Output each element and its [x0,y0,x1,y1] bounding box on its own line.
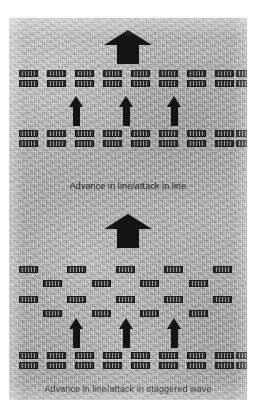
unit-block [92,280,111,287]
unit-block [215,352,234,359]
unit-block [187,130,206,137]
unit-block [236,352,247,359]
unit-block [19,70,38,77]
unit-block [19,352,38,359]
arrow-stem [123,106,130,126]
unit-block [19,140,38,147]
unit-block [215,70,234,77]
unit-block [215,140,234,147]
unit-block [213,296,232,303]
unit-block [131,352,150,359]
formation-diagram-figure: Advance in line/attack in line Advance i… [9,18,247,400]
unit-block [19,80,38,87]
unit-block [131,70,150,77]
attack-arrow-center [119,318,134,348]
arrow-stem [73,106,80,126]
unit-block [103,130,122,137]
unit-block [75,70,94,77]
unit-block [164,266,183,273]
main-advance-arrow [104,30,152,64]
unit-block [103,70,122,77]
panel-top-caption: Advance in line/attack in line [9,181,247,191]
unit-block [164,296,183,303]
unit-block [19,296,38,303]
unit-block [75,130,94,137]
unit-block [213,266,232,273]
arrow-head [104,214,152,229]
unit-block [215,80,234,87]
unit-block [187,352,206,359]
arrow-head [104,30,152,45]
unit-block [159,362,178,369]
unit-block [159,80,178,87]
unit-block [236,70,247,77]
attack-arrow-left [69,318,84,348]
unit-block [215,362,234,369]
main-advance-arrow [104,214,152,248]
unit-block [187,80,206,87]
unit-block [140,310,159,317]
unit-block [236,140,247,147]
unit-block [75,352,94,359]
unit-block [75,362,94,369]
unit-block [189,280,208,287]
arrow-stem [117,44,139,64]
unit-block [103,352,122,359]
arrow-stem [73,328,80,348]
arrow-stem [123,328,130,348]
panel-bottom-caption: Advance in line/attack in staggered wave [9,384,247,394]
unit-block [131,140,150,147]
unit-block [236,362,247,369]
unit-block [67,266,86,273]
unit-block [131,80,150,87]
arrow-stem [117,228,139,248]
unit-block [187,140,206,147]
unit-block [75,140,94,147]
unit-block [47,130,66,137]
unit-block [103,140,122,147]
unit-block [47,80,66,87]
unit-block [19,266,38,273]
unit-block [47,352,66,359]
unit-block [131,130,150,137]
unit-block [189,310,208,317]
unit-block [187,70,206,77]
unit-block [236,130,247,137]
unit-block [43,310,62,317]
panel-advance-in-line: Advance in line/attack in line [9,18,247,208]
unit-block [159,140,178,147]
unit-block [47,70,66,77]
attack-arrow-right [167,96,182,126]
unit-block [47,140,66,147]
unit-block [236,80,247,87]
unit-block [159,70,178,77]
unit-block [47,362,66,369]
attack-arrow-right [167,318,182,348]
unit-block [19,362,38,369]
unit-block [43,280,62,287]
unit-block [103,362,122,369]
unit-block [159,130,178,137]
arrow-stem [171,328,178,348]
unit-block [92,310,111,317]
attack-arrow-left [69,96,84,126]
unit-block [140,280,159,287]
unit-block [116,266,135,273]
unit-block [187,362,206,369]
unit-block [215,130,234,137]
unit-block [131,362,150,369]
unit-block [19,130,38,137]
unit-block [159,352,178,359]
unit-block [116,296,135,303]
attack-arrow-center [119,96,134,126]
arrow-stem [171,106,178,126]
unit-block [67,296,86,303]
unit-block [75,80,94,87]
panel-staggered-wave: Advance in line/attack in staggered wave [9,208,247,400]
unit-block [103,80,122,87]
